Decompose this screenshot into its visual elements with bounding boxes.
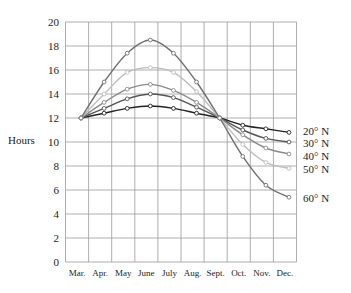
data-point-marker bbox=[125, 71, 129, 75]
y-tick-label: 2 bbox=[54, 232, 60, 244]
series-label: 50° N bbox=[303, 163, 329, 175]
x-tick-label: Apr. bbox=[92, 268, 108, 278]
y-tick-label: 14 bbox=[48, 88, 60, 100]
y-tick-label: 20 bbox=[48, 16, 60, 28]
data-point-marker bbox=[102, 101, 106, 105]
x-tick-label: July bbox=[162, 268, 178, 278]
data-point-marker bbox=[125, 51, 129, 55]
data-point-marker bbox=[241, 128, 245, 132]
data-point-marker bbox=[148, 92, 152, 96]
data-point-marker bbox=[241, 133, 245, 137]
y-axis-label: Hours bbox=[8, 134, 35, 146]
data-point-marker bbox=[287, 195, 291, 199]
series-label: 40° N bbox=[303, 150, 329, 162]
y-tick-label: 8 bbox=[54, 160, 60, 172]
data-point-marker bbox=[102, 80, 106, 84]
data-point-marker bbox=[172, 89, 176, 93]
y-tick-label: 0 bbox=[54, 256, 60, 268]
data-point-marker bbox=[195, 90, 199, 94]
series-line bbox=[81, 106, 289, 132]
data-point-marker bbox=[195, 111, 199, 115]
data-point-marker bbox=[102, 92, 106, 96]
data-point-marker bbox=[195, 105, 199, 109]
grid bbox=[66, 22, 297, 262]
series-label: 60° N bbox=[303, 192, 329, 204]
data-point-marker bbox=[148, 38, 152, 42]
data-point-marker bbox=[241, 143, 245, 147]
data-point-marker bbox=[287, 140, 291, 144]
x-tick-label: Oct. bbox=[231, 268, 246, 278]
series-40n bbox=[79, 83, 291, 156]
data-point-marker bbox=[287, 152, 291, 156]
x-tick-label: May bbox=[115, 268, 132, 278]
data-point-marker bbox=[148, 104, 152, 108]
series-line bbox=[81, 40, 289, 197]
data-point-marker bbox=[79, 116, 83, 120]
data-point-marker bbox=[241, 155, 245, 159]
x-tick-label: Aug. bbox=[184, 268, 202, 278]
data-point-marker bbox=[125, 87, 129, 91]
x-axis-ticks: Mar.Apr.MayJuneJulyAug.Sept.Oct.Nov.Dec. bbox=[69, 268, 294, 278]
series-line bbox=[81, 84, 289, 154]
data-point-marker bbox=[218, 116, 222, 120]
series-60n bbox=[79, 38, 291, 199]
y-tick-label: 4 bbox=[54, 208, 60, 220]
series-label: 20° N bbox=[303, 125, 329, 137]
data-point-marker bbox=[102, 111, 106, 115]
data-point-marker bbox=[172, 71, 176, 75]
x-tick-label: Dec. bbox=[277, 268, 294, 278]
data-point-marker bbox=[172, 107, 176, 111]
data-point-marker bbox=[264, 183, 268, 187]
data-point-marker bbox=[195, 101, 199, 105]
data-point-marker bbox=[148, 83, 152, 87]
data-point-marker bbox=[125, 107, 129, 111]
data-point-marker bbox=[125, 97, 129, 101]
series-lines bbox=[79, 38, 291, 199]
series-label: 30° N bbox=[303, 137, 329, 149]
y-axis-ticks: 02468101214161820 bbox=[48, 16, 60, 268]
y-tick-label: 12 bbox=[48, 112, 59, 124]
y-tick-label: 16 bbox=[48, 64, 60, 76]
data-point-marker bbox=[172, 51, 176, 55]
daylight-hours-chart: 02468101214161820 Mar.Apr.MayJuneJulyAug… bbox=[0, 0, 351, 293]
x-tick-label: Mar. bbox=[69, 268, 86, 278]
data-point-marker bbox=[172, 96, 176, 100]
data-point-marker bbox=[241, 123, 245, 127]
x-tick-label: June bbox=[138, 268, 155, 278]
data-point-marker bbox=[264, 146, 268, 150]
series-labels: 20° N30° N40° N50° N60° N bbox=[303, 125, 329, 204]
data-point-marker bbox=[287, 131, 291, 135]
data-point-marker bbox=[264, 127, 268, 131]
data-point-marker bbox=[148, 66, 152, 70]
data-point-marker bbox=[264, 161, 268, 165]
data-point-marker bbox=[287, 167, 291, 171]
series-20n bbox=[79, 104, 291, 134]
y-tick-label: 6 bbox=[54, 184, 60, 196]
x-tick-label: Sept. bbox=[207, 268, 225, 278]
y-tick-label: 10 bbox=[48, 136, 60, 148]
data-point-marker bbox=[264, 137, 268, 141]
data-point-marker bbox=[195, 80, 199, 84]
y-tick-label: 18 bbox=[48, 40, 60, 52]
x-tick-label: Nov. bbox=[253, 268, 270, 278]
data-point-marker bbox=[102, 107, 106, 111]
